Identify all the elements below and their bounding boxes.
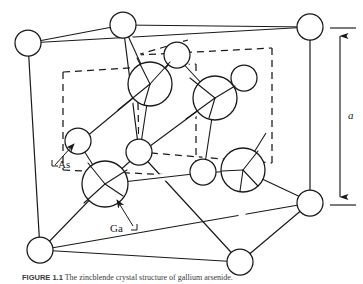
atom-as (297, 14, 323, 40)
atom-group-as (15, 12, 323, 275)
atom-as (126, 139, 152, 165)
label-as: As (58, 158, 70, 170)
figure-caption-label: FIGURE 1.1 (22, 273, 63, 282)
atom-as (15, 30, 41, 56)
figure-container: As Ga a FIGURE 1.1 The zincblende crysta… (0, 0, 363, 284)
figure-caption: FIGURE 1.1 The zincblende crystal struct… (22, 272, 352, 283)
gaas-unit-cell-svg (0, 0, 363, 284)
label-lattice-constant: a (348, 109, 354, 121)
atom-as (27, 237, 53, 263)
figure-caption-text: The zincblende crystal structure of gall… (65, 273, 233, 282)
atom-as (110, 12, 136, 38)
label-ga: Ga (110, 222, 123, 234)
atom-as (190, 159, 216, 185)
atom-as (231, 65, 257, 91)
atom-as (297, 190, 323, 216)
